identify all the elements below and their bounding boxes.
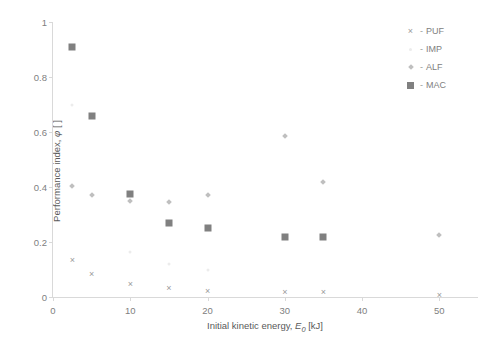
legend-item-mac[interactable]: -MAC [404, 76, 446, 94]
data-point-alf [166, 199, 172, 205]
data-point-mac [281, 233, 288, 240]
y-axis-tick-mark [49, 132, 53, 133]
data-point-alf [89, 192, 95, 198]
data-point-mac [204, 225, 211, 232]
x-axis-unit: [kJ] [306, 320, 323, 331]
data-point-puf: × [89, 270, 94, 279]
x-axis-tick-mark [285, 297, 286, 301]
legend-label: IMP [426, 44, 442, 54]
square-marker-icon [404, 82, 417, 89]
legend-label: MAC [426, 80, 446, 90]
data-point-imp [167, 263, 170, 266]
y-axis-tick-mark [49, 187, 53, 188]
data-point-alf [127, 198, 133, 204]
data-point-puf: × [166, 284, 171, 293]
cross-marker-icon: × [404, 26, 417, 36]
diamond-marker-icon [404, 65, 417, 69]
legend-item-puf[interactable]: ×-PUF [404, 22, 446, 40]
data-point-puf: × [128, 280, 133, 289]
legend-separator: - [417, 80, 426, 90]
data-point-puf: × [70, 256, 75, 265]
data-point-alf [69, 183, 75, 189]
chart-legend: ×-PUF-IMP-ALF-MAC [404, 22, 446, 94]
data-point-alf [205, 192, 211, 198]
cross-marker: × [408, 26, 413, 36]
legend-separator: - [417, 44, 426, 54]
data-point-alf [282, 133, 288, 139]
data-point-mac [320, 233, 327, 240]
legend-label: PUF [426, 26, 444, 36]
dot-marker-icon [404, 48, 417, 51]
y-axis-tick-mark [49, 242, 53, 243]
dot-marker [409, 48, 412, 51]
x-axis-title-text: Initial kinetic energy, [207, 320, 295, 331]
data-point-puf: × [437, 291, 442, 300]
x-axis-title: Initial kinetic energy, E0 [kJ] [52, 320, 478, 334]
data-point-imp [206, 268, 209, 271]
legend-separator: - [417, 62, 426, 72]
data-point-alf [437, 232, 443, 238]
legend-separator: - [417, 26, 426, 36]
data-point-alf [321, 179, 327, 185]
data-point-puf: × [282, 288, 287, 297]
data-point-mac [127, 190, 134, 197]
data-point-imp [71, 103, 74, 106]
legend-label: ALF [426, 62, 443, 72]
y-axis-tick-mark [49, 22, 53, 23]
y-axis-tick-mark [49, 77, 53, 78]
data-point-imp [129, 250, 132, 253]
square-marker [407, 82, 414, 89]
x-axis-tick-mark [362, 297, 363, 301]
data-point-puf: × [205, 287, 210, 296]
data-point-mac [69, 43, 76, 50]
x-axis-tick-mark [53, 297, 54, 301]
legend-item-imp[interactable]: -IMP [404, 40, 446, 58]
data-point-mac [88, 112, 95, 119]
data-point-puf: × [321, 288, 326, 297]
legend-item-alf[interactable]: -ALF [404, 58, 446, 76]
x-axis-tick-mark [208, 297, 209, 301]
diamond-marker [408, 64, 414, 70]
x-axis-tick-mark [130, 297, 131, 301]
scatter-chart: Performance index, φ [ ] 00.20.40.60.810… [0, 0, 489, 341]
data-point-mac [165, 219, 172, 226]
